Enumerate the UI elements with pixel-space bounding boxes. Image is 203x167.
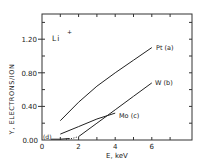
label-pt: Pt (a): [156, 44, 174, 52]
svg-text:0: 0: [40, 143, 44, 151]
series-w: [79, 83, 152, 137]
svg-text:6: 6: [150, 143, 155, 151]
series-mo: [60, 113, 115, 134]
svg-text:0.80: 0.80: [21, 70, 37, 78]
y-axis-label: Y, ELECTRONS/ION: [8, 64, 16, 136]
series-lines: [51, 48, 152, 140]
svg-text:0.40: 0.40: [21, 103, 37, 111]
svg-text:0.00: 0.00: [22, 137, 38, 145]
chart: 0 2 4 6 0.00 0.40 0.80 1.20 E, keV Y, EL…: [0, 0, 203, 167]
x-tick-labels: 0 2 4 6: [40, 143, 155, 151]
svg-text:2: 2: [76, 143, 80, 151]
label-mo: Mo (c): [119, 112, 139, 120]
x-axis-label: E, keV: [106, 152, 128, 160]
svg-text:1.20: 1.20: [21, 36, 37, 44]
label-d: (d): [43, 133, 52, 140]
svg-text:4: 4: [113, 143, 118, 151]
x-ticks: [60, 14, 170, 140]
plot-frame: [42, 14, 192, 140]
series-labels: Pt (a) W (b) Mo (c) (d): [43, 44, 174, 140]
label-w: W (b): [155, 79, 173, 87]
series-pt: [60, 48, 152, 121]
y-tick-labels: 0.00 0.40 0.80 1.20: [21, 36, 38, 145]
ion-annotation: Li: [52, 34, 60, 43]
ion-annotation-sup: +: [67, 28, 72, 35]
